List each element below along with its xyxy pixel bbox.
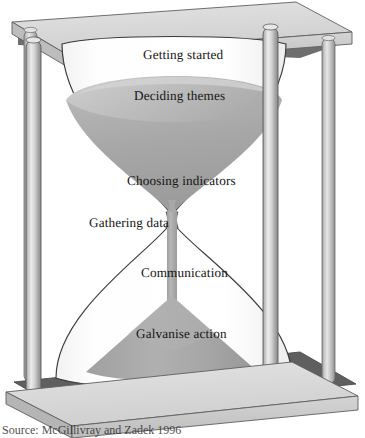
stage-label-gathering-data: Gathering data <box>89 216 169 229</box>
pillar-front-right <box>263 24 278 398</box>
stage-label-getting-started: Getting started <box>143 48 223 61</box>
pillar-front-left <box>26 37 41 398</box>
stage-label-deciding-themes: Deciding themes <box>134 89 225 102</box>
hourglass-illustration <box>0 0 365 438</box>
hourglass-figure: Getting started Deciding themes Choosing… <box>0 0 365 438</box>
stage-label-galvanise-action: Galvanise action <box>136 327 227 340</box>
stage-label-choosing-indicators: Choosing indicators <box>127 174 236 187</box>
stage-label-communication: Communication <box>141 266 228 279</box>
source-caption: Source: McGillivray and Zadek 1996 <box>2 424 181 436</box>
pillar-back-right <box>322 35 335 384</box>
